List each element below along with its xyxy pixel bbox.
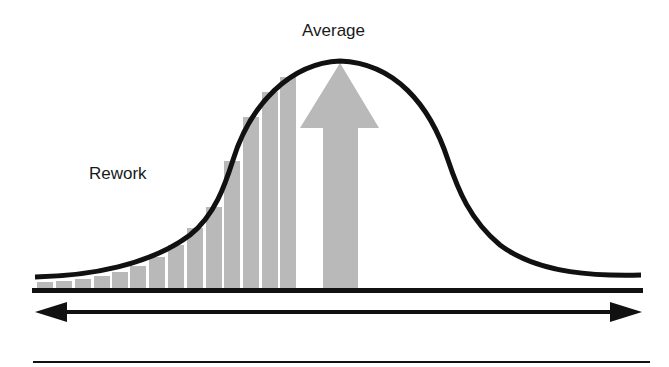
baseline (32, 288, 643, 293)
average-label: Average (302, 22, 365, 39)
rework-bar (94, 276, 110, 288)
rework-label: Rework (89, 165, 147, 182)
rework-bar (262, 92, 278, 288)
diagram-canvas (0, 0, 669, 367)
right-arrowhead-icon (610, 302, 642, 322)
rework-bar (37, 282, 53, 288)
rework-bar (243, 117, 259, 288)
average-up-arrow (300, 63, 379, 289)
rework-bar (112, 272, 128, 288)
rework-bar (280, 77, 296, 288)
rework-bar (56, 281, 72, 288)
rework-bar (130, 266, 146, 288)
rework-bar (149, 257, 165, 288)
range-double-arrow (35, 302, 642, 322)
rework-bar (168, 245, 184, 288)
rework-bar (75, 279, 91, 288)
bell-curve-diagram: Average Rework (0, 0, 669, 367)
left-arrowhead-icon (35, 302, 67, 322)
bottom-rule (33, 361, 650, 363)
